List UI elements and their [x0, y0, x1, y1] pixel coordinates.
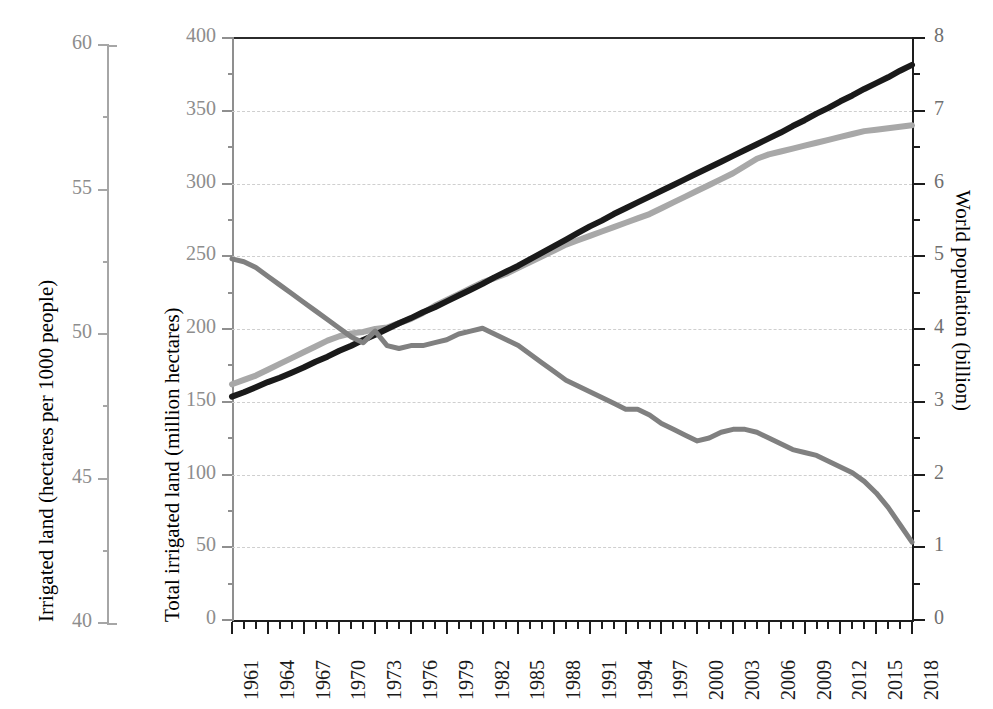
- x-tick-label: 1970: [347, 660, 370, 700]
- outer-left-major-tick: [98, 333, 109, 335]
- right-major-tick: [912, 255, 925, 257]
- outer-left-minor-tick: [103, 116, 109, 118]
- outer-left-minor-tick: [103, 261, 109, 263]
- outer-left-tick-label: 60: [20, 31, 92, 54]
- x-major-tick: [303, 622, 305, 634]
- x-major-tick: [839, 622, 841, 634]
- inner-left-minor-tick: [228, 583, 234, 585]
- x-major-tick: [410, 622, 412, 634]
- x-minor-tick: [863, 622, 865, 629]
- x-tick-label: 1979: [455, 660, 478, 700]
- x-tick-label: 2015: [884, 660, 907, 700]
- x-tick-label: 2006: [777, 660, 800, 700]
- inner-left-tick-label: 350: [140, 97, 216, 120]
- x-minor-tick: [279, 622, 281, 629]
- x-tick-label: 1982: [491, 660, 514, 700]
- gridline: [232, 475, 912, 476]
- outer-left-major-tick: [98, 189, 109, 191]
- right-major-tick: [912, 619, 925, 621]
- x-minor-tick: [792, 622, 794, 629]
- series-line: [232, 259, 912, 542]
- x-tick-label: 1994: [634, 660, 657, 700]
- x-major-tick: [374, 622, 376, 634]
- x-minor-tick: [505, 622, 507, 629]
- right-minor-tick: [912, 146, 920, 148]
- inner-left-tick-label: 250: [140, 242, 216, 265]
- inner-left-minor-tick: [228, 364, 234, 366]
- inner-left-tick-label: 50: [140, 533, 216, 556]
- inner-left-tick-label: 0: [140, 606, 216, 629]
- right-major-tick: [912, 183, 925, 185]
- series-line: [232, 125, 912, 384]
- x-major-tick: [338, 622, 340, 634]
- x-minor-tick: [541, 622, 543, 629]
- x-major-tick: [482, 622, 484, 634]
- outer-left-tick-label: 50: [20, 320, 92, 343]
- x-major-tick: [875, 622, 877, 634]
- x-major-tick: [768, 622, 770, 634]
- inner-left-minor-tick: [228, 437, 234, 439]
- x-minor-tick: [649, 622, 651, 629]
- x-minor-tick: [326, 622, 328, 629]
- right-minor-tick: [912, 583, 920, 585]
- x-minor-tick: [816, 622, 818, 629]
- x-tick-label: 2003: [741, 660, 764, 700]
- inner-left-minor-tick: [228, 73, 234, 75]
- gridline: [232, 111, 912, 112]
- plot-bottom-spine: [232, 620, 914, 622]
- gridline: [232, 547, 912, 548]
- x-major-tick: [804, 622, 806, 634]
- x-major-tick: [267, 622, 269, 634]
- inner-left-tick-label: 400: [140, 24, 216, 47]
- x-minor-tick: [470, 622, 472, 629]
- x-minor-tick: [601, 622, 603, 629]
- inner-left-minor-tick: [228, 510, 234, 512]
- series-line: [232, 65, 912, 397]
- x-minor-tick: [899, 622, 901, 629]
- inner-left-minor-tick: [228, 146, 234, 148]
- right-minor-tick: [912, 437, 920, 439]
- inner-left-tick-label: 150: [140, 388, 216, 411]
- plot-top-spine: [232, 37, 914, 39]
- outer-left-minor-tick: [103, 405, 109, 407]
- x-tick-label: 1976: [419, 660, 442, 700]
- x-tick-label: 1988: [562, 660, 585, 700]
- inner-left-major-tick: [222, 37, 234, 39]
- x-minor-tick: [386, 622, 388, 629]
- x-minor-tick: [756, 622, 758, 629]
- gridline: [232, 402, 912, 403]
- inner-left-tick-label: 100: [140, 461, 216, 484]
- x-major-tick: [589, 622, 591, 634]
- inner-left-minor-tick: [228, 292, 234, 294]
- x-major-tick: [625, 622, 627, 634]
- x-major-tick: [517, 622, 519, 634]
- outer-left-major-tick: [98, 44, 109, 46]
- gridline: [232, 256, 912, 257]
- x-minor-tick: [315, 622, 317, 629]
- right-major-tick: [912, 401, 925, 403]
- x-tick-label: 1961: [240, 660, 263, 700]
- right-major-tick: [912, 328, 925, 330]
- outer-left-major-tick: [98, 478, 109, 480]
- x-minor-tick: [422, 622, 424, 629]
- x-tick-label: 2009: [813, 660, 836, 700]
- outer-left-minor-tick: [103, 550, 109, 552]
- x-major-tick: [231, 622, 233, 634]
- x-minor-tick: [291, 622, 293, 629]
- x-minor-tick: [613, 622, 615, 629]
- x-minor-tick: [493, 622, 495, 629]
- x-minor-tick: [243, 622, 245, 629]
- x-major-tick: [446, 622, 448, 634]
- right-axis-title: World population (billion): [950, 190, 975, 709]
- outer-left-tick-label: 55: [20, 176, 92, 199]
- x-minor-tick: [851, 622, 853, 629]
- x-minor-tick: [362, 622, 364, 629]
- x-tick-label: 1991: [598, 660, 621, 700]
- inner-left-minor-tick: [228, 219, 234, 221]
- outer-left-tick-label: 45: [20, 465, 92, 488]
- outer-left-tick-label: 40: [20, 609, 92, 632]
- x-minor-tick: [708, 622, 710, 629]
- x-tick-label: 1973: [383, 660, 406, 700]
- inner-left-tick-label: 200: [140, 315, 216, 338]
- right-major-tick: [912, 546, 925, 548]
